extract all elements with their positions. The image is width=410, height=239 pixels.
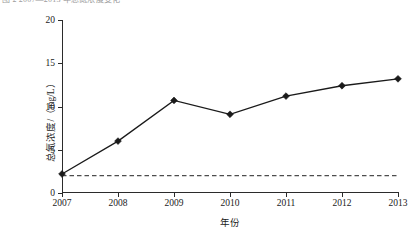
data-series-layer bbox=[62, 20, 398, 193]
x-tick-label: 2009 bbox=[165, 198, 184, 208]
y-tick-label: 5 bbox=[50, 145, 55, 155]
data-point-marker bbox=[339, 82, 346, 89]
x-tick-label: 2013 bbox=[389, 198, 408, 208]
x-tick-label: 2007 bbox=[53, 198, 72, 208]
x-tick-label: 2010 bbox=[221, 198, 240, 208]
x-tick-label: 2008 bbox=[109, 198, 128, 208]
y-tick-label: 15 bbox=[46, 58, 56, 68]
data-point-marker bbox=[227, 111, 234, 118]
y-tick-label: 0 bbox=[50, 188, 55, 198]
y-tick-label: 20 bbox=[46, 15, 56, 25]
figure-caption-text: 图 2 2007—2013 年总氮浓度变化 bbox=[0, 0, 410, 4]
data-point-marker bbox=[283, 93, 290, 100]
series-line bbox=[62, 79, 398, 174]
plot-area: 05101520 2007200820092010201120122013 bbox=[62, 20, 398, 193]
figure-canvas: 图 2 2007—2013 年总氮浓度变化 总氮浓度/（mg/L） 051015… bbox=[0, 0, 410, 239]
y-tick-label: 10 bbox=[46, 102, 56, 112]
x-tick-label: 2011 bbox=[277, 198, 296, 208]
figure-caption-fragment: 图 2 2007—2013 年总氮浓度变化 bbox=[0, 0, 410, 7]
data-point-marker bbox=[395, 75, 402, 82]
x-axis-title: 年份 bbox=[62, 215, 398, 229]
x-tick-label: 2012 bbox=[333, 198, 352, 208]
x-tick-mark bbox=[398, 192, 399, 197]
